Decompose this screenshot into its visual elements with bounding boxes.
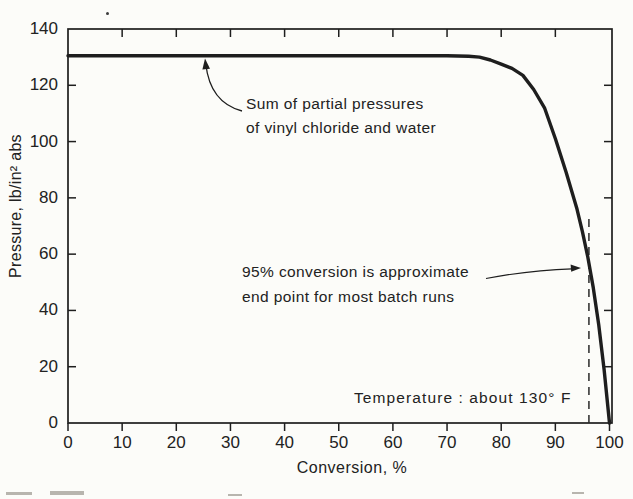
cropped-caption-fragment (6, 492, 32, 495)
annotation-text-line: 95% conversion is approximate (242, 259, 469, 284)
annotation-partial-pressures: Sum of partial pressures of vinyl chlori… (246, 92, 436, 140)
y-tick-label: 140 (16, 19, 58, 39)
scan-speck (106, 12, 109, 15)
leader-line-conversion-endpoint (486, 269, 572, 279)
x-tick-label: 100 (588, 433, 632, 453)
y-tick-label: 0 (16, 413, 58, 433)
leader-line-partial-pressures (206, 64, 242, 111)
cropped-caption-fragment (50, 491, 84, 495)
x-tick-label: 50 (317, 433, 361, 453)
y-tick-label: 120 (16, 75, 58, 95)
x-tick-label: 40 (263, 433, 307, 453)
annotation-text-line: end point for most batch runs (242, 284, 469, 309)
temperature-note: Temperature : about 130° F (354, 389, 571, 407)
x-tick-label: 70 (425, 433, 469, 453)
y-tick-label: 20 (16, 357, 58, 377)
y-axis-label: Pressure, lb/in² abs (7, 104, 27, 308)
cropped-caption-fragment (572, 492, 584, 494)
arrowhead-right-icon (571, 264, 581, 271)
x-tick-label: 0 (46, 433, 90, 453)
x-tick-label: 90 (533, 433, 577, 453)
axis-ticks (68, 29, 612, 431)
x-tick-label: 60 (371, 433, 415, 453)
figure-pressure-vs-conversion: 0102030405060708090100 02040608010012014… (0, 0, 633, 499)
x-tick-label: 10 (100, 433, 144, 453)
annotation-text-line: of vinyl chloride and water (246, 116, 436, 140)
cropped-caption-fragment (228, 494, 242, 496)
annotation-text-line: Sum of partial pressures (246, 92, 436, 116)
plot-canvas (0, 0, 633, 499)
x-tick-label: 20 (154, 433, 198, 453)
axis-frame (68, 29, 612, 423)
x-tick-label: 30 (208, 433, 252, 453)
plot-frame (68, 29, 612, 423)
arrowhead-up-icon (202, 59, 210, 70)
x-tick-label: 80 (479, 433, 523, 453)
annotation-conversion-endpoint: 95% conversion is approximate end point … (242, 259, 469, 309)
x-axis-label: Conversion, % (282, 459, 422, 477)
